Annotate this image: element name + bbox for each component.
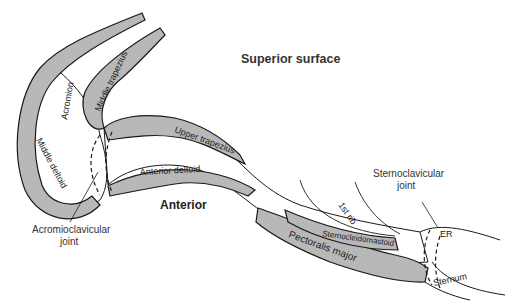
sternoclavicular-label-line1: Sternoclavicular [373,168,445,179]
diagram-title: Superior surface [241,52,340,66]
er-label: ER [440,229,453,239]
acromioclavicular-label-line1: Acromioclavicular [32,224,111,235]
anterior-label: Anterior [160,198,207,212]
sternum-bone [420,227,505,300]
clavicle-diagram: Superior surface Anterior Acromioclavicu… [0,0,510,307]
sternoclavicular-leader [422,202,438,228]
sternum-label: Sternum [432,271,467,288]
sternoclavicular-label-line2: joint [396,180,416,191]
acromioclavicular-label-line2: joint [59,236,79,247]
